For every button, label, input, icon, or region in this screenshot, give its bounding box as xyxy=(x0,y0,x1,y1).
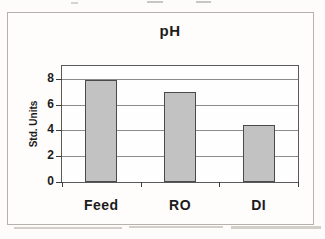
y-tick-mark xyxy=(56,105,62,106)
scan-artifact xyxy=(71,2,78,4)
bar xyxy=(164,92,196,182)
y-tick-label: 4 xyxy=(34,122,54,136)
category-label: RO xyxy=(141,197,220,213)
x-tick-mark xyxy=(62,182,63,187)
bar xyxy=(85,80,117,182)
category-label: DI xyxy=(219,197,298,213)
y-tick-label: 0 xyxy=(34,174,54,188)
scan-artifact xyxy=(14,227,122,229)
scan-artifact xyxy=(129,226,223,228)
scan-artifact xyxy=(147,1,163,3)
chart-canvas: pH Std. Units 02468FeedRODI xyxy=(0,0,325,239)
plot-area xyxy=(61,65,299,183)
bar xyxy=(243,125,275,182)
chart-title: pH xyxy=(40,22,300,39)
category-label: Feed xyxy=(62,197,141,213)
scan-artifact xyxy=(196,1,211,3)
y-tick-mark xyxy=(56,156,62,157)
x-tick-mark xyxy=(141,182,142,187)
x-tick-mark xyxy=(219,182,220,187)
y-tick-label: 8 xyxy=(34,71,54,85)
y-tick-label: 2 xyxy=(34,148,54,162)
y-tick-mark xyxy=(56,79,62,80)
scan-artifact xyxy=(231,226,321,229)
y-tick-mark xyxy=(56,130,62,131)
x-tick-mark xyxy=(298,182,299,187)
y-tick-label: 6 xyxy=(34,97,54,111)
